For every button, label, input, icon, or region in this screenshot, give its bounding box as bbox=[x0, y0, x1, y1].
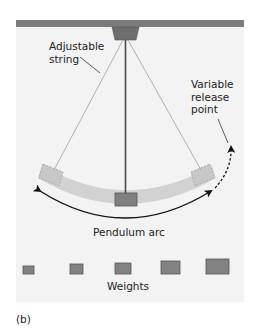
label-weights: Weights bbox=[107, 280, 149, 293]
weight-2 bbox=[70, 264, 83, 274]
panel-label: (b) bbox=[16, 313, 31, 325]
release-position-left bbox=[39, 164, 63, 186]
pendulum-bob bbox=[115, 193, 137, 206]
release-position-right bbox=[191, 164, 214, 186]
release-point-leader bbox=[218, 119, 228, 143]
weights-group bbox=[23, 259, 229, 274]
label-line: Variable bbox=[191, 78, 234, 91]
label-adjustable-string: Adjustable string bbox=[49, 40, 104, 65]
label-line: string bbox=[49, 53, 104, 66]
weight-1 bbox=[23, 266, 34, 274]
weight-3 bbox=[115, 263, 131, 274]
label-line: release bbox=[191, 91, 234, 104]
label-variable-release-point: Variable release point bbox=[191, 78, 234, 116]
label-line: point bbox=[191, 103, 234, 116]
pivot-mount bbox=[112, 27, 139, 40]
release-point-arrow bbox=[215, 147, 231, 188]
label-line: Adjustable bbox=[49, 40, 104, 53]
label-pendulum-arc: Pendulum arc bbox=[93, 226, 165, 239]
weight-4 bbox=[161, 261, 180, 274]
ceiling-bar bbox=[16, 20, 244, 27]
weight-5 bbox=[206, 259, 229, 274]
